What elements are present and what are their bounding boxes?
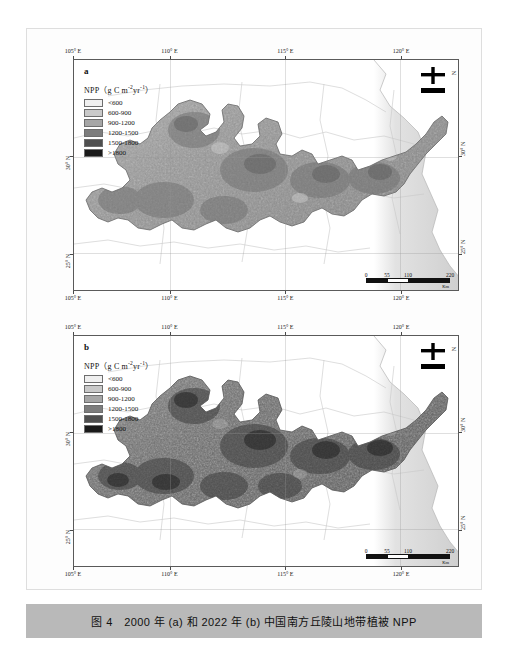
scalebar-a: 0 55 110 220 Km bbox=[366, 270, 450, 283]
axis-bottom-label-110e-b: 110° E bbox=[161, 571, 177, 577]
tick-top-115e-b bbox=[285, 332, 286, 335]
legend-swatch-gt1800-a bbox=[84, 149, 103, 157]
axis-top-label-120e-b: 120° E bbox=[393, 324, 410, 330]
scalebar-seg-3-a bbox=[408, 279, 449, 282]
legend-item: 600-900 bbox=[84, 108, 153, 118]
axis-left-label-30n-a: 30° N bbox=[65, 156, 71, 170]
north-arrow-b: N bbox=[418, 342, 448, 378]
tick-bottom-110e-b bbox=[170, 567, 171, 570]
legend-swatch-900-1200-b bbox=[84, 395, 103, 403]
legend-label-1500-1800-b: 1500-1800 bbox=[108, 415, 138, 423]
scalebar-seg-3-b bbox=[408, 555, 449, 558]
axis-right-label-30n-a: 30° N bbox=[460, 142, 466, 156]
north-arrow-icon-b bbox=[418, 342, 448, 378]
legend-item: 600-900 bbox=[84, 384, 153, 394]
tick-right-30n-b bbox=[459, 432, 462, 433]
tick-top-105e-b bbox=[73, 332, 74, 335]
scalebar-b: 0 55 110 220 Km bbox=[366, 546, 450, 559]
scalebar-unit-b: Km bbox=[442, 560, 449, 565]
axis-top-label-110e-a: 110° E bbox=[161, 48, 177, 54]
panel-a-frame: a NPP（g C m-2yr-1） <600 600-900 bbox=[73, 59, 459, 291]
legend-swatch-600-900-a bbox=[84, 109, 103, 117]
tick-bottom-120e-a bbox=[401, 291, 402, 294]
scalebar-seg-2-a bbox=[388, 279, 409, 282]
legend-label-600-900-a: 600-900 bbox=[108, 109, 131, 117]
tick-bottom-105e-a bbox=[73, 291, 74, 294]
tick-top-115e-a bbox=[285, 56, 286, 59]
axis-left-label-25n-a: 25° N bbox=[65, 254, 71, 268]
axis-bottom-label-120e-a: 120° E bbox=[393, 295, 410, 301]
tick-top-120e-b bbox=[401, 332, 402, 335]
axis-bottom-label-120e-b: 120° E bbox=[393, 571, 410, 577]
legend-item: >1800 bbox=[84, 148, 153, 158]
legend-item: 900-1200 bbox=[84, 394, 153, 404]
graticule-115e-b bbox=[285, 336, 286, 566]
figure-page: a NPP（g C m-2yr-1） <600 600-900 bbox=[0, 0, 508, 660]
axis-left-label-30n-b: 30° N bbox=[65, 432, 71, 446]
legend-label-900-1200-a: 900-1200 bbox=[108, 119, 135, 127]
legend-title-b: NPP（g C m-2yr-1） bbox=[84, 360, 153, 371]
tick-bottom-120e-b bbox=[401, 567, 402, 570]
graticule-115e-a bbox=[285, 60, 286, 290]
north-arrow-icon-a bbox=[418, 66, 448, 102]
tick-top-110e-a bbox=[170, 56, 171, 59]
scalebar-bar-b: Km bbox=[366, 554, 450, 559]
legend-label-gt1800-b: >1800 bbox=[108, 425, 126, 433]
tick-bottom-105e-b bbox=[73, 567, 74, 570]
axis-bottom-label-115e-b: 115° E bbox=[277, 571, 293, 577]
axis-bottom-label-105e-b: 105° E bbox=[65, 571, 82, 577]
axis-top-label-110e-b: 110° E bbox=[161, 324, 177, 330]
legend-title-main-a: NPP bbox=[84, 86, 99, 95]
legend-swatch-1500-1800-b bbox=[84, 415, 103, 423]
legend-item: 1500-1800 bbox=[84, 414, 153, 424]
legend-title-main-b: NPP bbox=[84, 362, 99, 371]
legend-label-1200-1500-a: 1200-1500 bbox=[108, 129, 138, 137]
legend-swatch-lt600-a bbox=[84, 99, 103, 107]
legend-title-close-a: ） bbox=[145, 86, 153, 95]
figure-caption-bar: 图 4 2000 年 (a) 和 2022 年 (b) 中国南方丘陵山地带植被 … bbox=[26, 604, 482, 638]
axis-right-label-30n-b: 30° N bbox=[460, 418, 466, 432]
legend-swatch-lt600-b bbox=[84, 375, 103, 383]
map-panel-a[interactable]: a NPP（g C m-2yr-1） <600 600-900 bbox=[73, 59, 459, 291]
legend-item: 1200-1500 bbox=[84, 404, 153, 414]
axis-left-label-25n-b: 25° N bbox=[65, 530, 71, 544]
graticule-25n-a bbox=[74, 253, 458, 254]
tick-bottom-115e-b bbox=[285, 567, 286, 570]
legend-item: >1800 bbox=[84, 424, 153, 434]
axis-top-label-115e-a: 115° E bbox=[277, 48, 293, 54]
graticule-120e-a bbox=[400, 60, 401, 290]
tick-right-25n-a bbox=[459, 254, 462, 255]
graticule-25n-b bbox=[74, 529, 458, 530]
axis-top-label-115e-b: 115° E bbox=[277, 324, 293, 330]
legend-label-600-900-b: 600-900 bbox=[108, 385, 131, 393]
legend-label-lt600-b: <600 bbox=[108, 375, 122, 383]
legend-item: <600 bbox=[84, 98, 153, 108]
legend-b: NPP（g C m-2yr-1） <600 600-900 900-1200 bbox=[84, 360, 153, 434]
figure-caption-text: 图 4 2000 年 (a) 和 2022 年 (b) 中国南方丘陵山地带植被 … bbox=[91, 613, 416, 629]
legend-label-1500-1800-a: 1500-1800 bbox=[108, 139, 138, 147]
legend-title-units-a: （g C m bbox=[99, 86, 128, 95]
scalebar-unit-a: Km bbox=[442, 284, 449, 289]
graticule-110e-a bbox=[170, 60, 171, 290]
scalebar-ticks-b: 0 55 110 220 bbox=[366, 546, 450, 554]
scalebar-seg-1-a bbox=[367, 279, 388, 282]
axis-top-label-105e-a: 105° E bbox=[65, 48, 82, 54]
axis-bottom-label-115e-a: 115° E bbox=[277, 295, 293, 301]
legend-item: 1200-1500 bbox=[84, 128, 153, 138]
axis-top-label-105e-b: 105° E bbox=[65, 324, 82, 330]
axis-right-label-25n-a: 25° N bbox=[460, 240, 466, 254]
legend-item: 1500-1800 bbox=[84, 138, 153, 148]
scalebar-seg-2-b bbox=[388, 555, 409, 558]
legend-swatch-600-900-b bbox=[84, 385, 103, 393]
map-panel-b[interactable]: b NPP（g C m-2yr-1） <600 600-900 bbox=[73, 335, 459, 567]
legend-a: NPP（g C m-2yr-1） <600 600-900 900-1200 bbox=[84, 84, 153, 158]
legend-label-lt600-a: <600 bbox=[108, 99, 122, 107]
tick-bottom-115e-a bbox=[285, 291, 286, 294]
north-arrow-letter-a: N bbox=[451, 71, 457, 75]
north-arrow-letter-b: N bbox=[451, 347, 457, 351]
legend-swatch-1500-1800-a bbox=[84, 139, 103, 147]
tick-top-110e-b bbox=[170, 332, 171, 335]
legend-swatch-1200-1500-b bbox=[84, 405, 103, 413]
legend-label-gt1800-a: >1800 bbox=[108, 149, 126, 157]
legend-title-close-b: ） bbox=[145, 362, 153, 371]
